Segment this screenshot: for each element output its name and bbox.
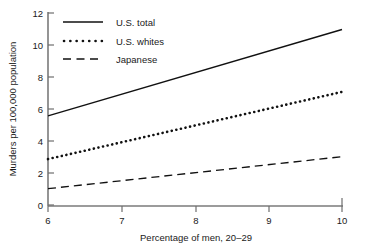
x-tick-label: 9 bbox=[266, 215, 271, 226]
y-tick-label: 8 bbox=[38, 72, 43, 83]
series-line-japanese bbox=[48, 157, 342, 189]
y-tick-label: 2 bbox=[38, 168, 43, 179]
x-tick-label: 8 bbox=[193, 215, 198, 226]
series-line-us-total bbox=[48, 30, 342, 116]
x-tick-label: 7 bbox=[119, 215, 124, 226]
y-tick-label: 0 bbox=[38, 200, 43, 211]
legend-item-japanese: Japanese bbox=[63, 54, 157, 65]
chart-legend: U.S. total U.S. whites Japanese bbox=[63, 17, 164, 65]
legend-label: Japanese bbox=[116, 54, 157, 65]
legend-item-us-whites: U.S. whites bbox=[64, 36, 164, 47]
series-line-us-whites bbox=[48, 92, 342, 159]
y-axis-ticks bbox=[48, 13, 54, 205]
x-tick-label: 6 bbox=[45, 215, 50, 226]
x-axis-tick-labels: 6 7 8 9 10 bbox=[45, 215, 347, 226]
chart-plot-area: 12 10 8 6 4 2 0 6 7 8 9 10 Percentage of… bbox=[0, 0, 367, 250]
y-tick-label: 6 bbox=[38, 104, 43, 115]
y-axis-tick-labels: 12 10 8 6 4 2 0 bbox=[32, 8, 43, 211]
legend-label: U.S. total bbox=[116, 17, 155, 28]
data-series-group bbox=[48, 30, 342, 189]
x-axis-ticks bbox=[48, 198, 342, 212]
legend-label: U.S. whites bbox=[116, 36, 164, 47]
y-axis-title: Murders per 100,000 population bbox=[7, 42, 18, 177]
legend-item-us-total: U.S. total bbox=[63, 17, 155, 28]
y-tick-label: 12 bbox=[32, 8, 43, 19]
x-tick-label: 10 bbox=[337, 215, 348, 226]
y-tick-label: 4 bbox=[38, 136, 43, 147]
chart-figure: 12 10 8 6 4 2 0 6 7 8 9 10 Percentage of… bbox=[0, 0, 367, 250]
y-tick-label: 10 bbox=[32, 40, 43, 51]
x-axis-title: Percentage of men, 20–29 bbox=[140, 232, 252, 243]
